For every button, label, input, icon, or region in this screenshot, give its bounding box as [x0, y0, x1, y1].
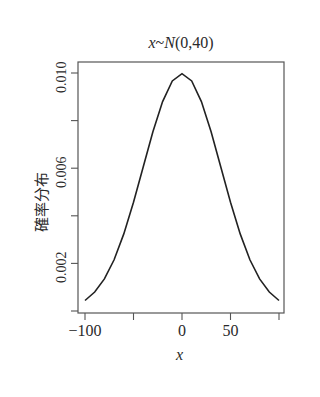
x-axis-label: x	[176, 346, 183, 364]
y-tick-label: 0.010	[54, 62, 70, 94]
x-tick-label: −100	[68, 322, 101, 340]
x-axis-ticks	[85, 313, 279, 320]
y-tick-label: 0.002	[54, 252, 70, 284]
plot-frame	[78, 62, 284, 313]
y-axis-ticks	[71, 73, 78, 311]
x-tick-label: 0	[178, 322, 186, 340]
density-curve	[85, 74, 279, 301]
y-axis-label: 確率分布	[30, 172, 51, 232]
y-tick-label: 0.006	[54, 157, 70, 189]
x-tick-label: 50	[223, 322, 239, 340]
